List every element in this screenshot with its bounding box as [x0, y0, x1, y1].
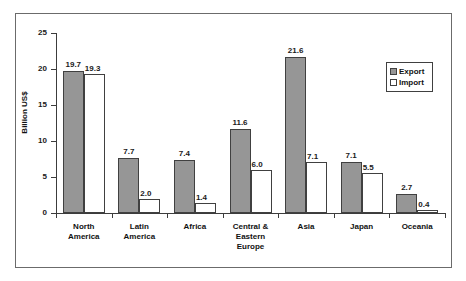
bar-label-import: 5.5	[363, 163, 374, 172]
legend-label-import: Import	[399, 78, 424, 87]
x-category-label: Oceania	[389, 222, 445, 232]
x-category-label-line: Eastern	[223, 232, 279, 242]
bar-label-export: 7.1	[339, 151, 364, 160]
bar-import	[84, 74, 105, 213]
legend-item-import: Import	[390, 77, 429, 88]
x-category-label-line: Japan	[334, 222, 390, 232]
x-category-label: NorthAmerica	[56, 222, 112, 242]
x-tick-mark	[334, 213, 335, 218]
x-tick-mark	[223, 213, 224, 218]
bar-import	[362, 173, 383, 213]
legend-swatch-export-icon	[390, 68, 397, 75]
x-category-label: Central &EasternEurope	[223, 222, 279, 252]
x-category-label-line: Africa	[167, 222, 223, 232]
x-axis-line	[56, 213, 445, 214]
bar-label-import: 0.4	[418, 200, 429, 209]
legend-swatch-import-icon	[390, 79, 397, 86]
y-tick-label: 25	[17, 29, 47, 37]
x-category-label: Japan	[334, 222, 390, 232]
bar-import	[306, 162, 327, 213]
x-tick-mark	[445, 213, 446, 218]
x-tick-mark	[112, 213, 113, 218]
y-tick-label: 20	[17, 65, 47, 73]
bar-label-export: 11.6	[228, 118, 253, 127]
bar-export	[174, 160, 195, 213]
bar-label-import: 1.4	[196, 193, 207, 202]
bar-label-import: 6.0	[252, 160, 263, 169]
x-category-label-line: Europe	[223, 242, 279, 252]
x-category-label-line: Oceania	[389, 222, 445, 232]
bar-label-import: 7.1	[307, 152, 318, 161]
legend-item-export: Export	[390, 66, 429, 77]
x-category-label: Asia	[278, 222, 334, 232]
bar-label-export: 2.7	[394, 183, 419, 192]
x-category-label-line: America	[112, 232, 168, 242]
x-tick-mark	[167, 213, 168, 218]
x-category-label-line: North	[56, 222, 112, 232]
bar-label-export: 21.6	[283, 46, 308, 55]
bar-import	[417, 210, 438, 213]
bar-label-export: 7.4	[172, 149, 197, 158]
bar-import	[251, 170, 272, 213]
y-tick-label: 5	[17, 173, 47, 181]
x-category-label-line: America	[56, 232, 112, 242]
bar-export	[63, 71, 84, 213]
x-tick-mark	[278, 213, 279, 218]
bar-export	[230, 129, 251, 213]
x-category-label: LatinAmerica	[112, 222, 168, 242]
legend-label-export: Export	[399, 67, 424, 76]
bar-export	[341, 162, 362, 213]
bar-label-import: 2.0	[140, 189, 151, 198]
y-tick-label: 0	[17, 209, 47, 217]
x-tick-mark	[56, 213, 57, 218]
bar-import	[195, 203, 216, 213]
bar-import	[139, 199, 160, 213]
bar-export	[118, 158, 139, 213]
x-category-label-line: Asia	[278, 222, 334, 232]
bar-label-import: 19.3	[85, 64, 101, 73]
chart-legend: Export Import	[386, 62, 433, 92]
bar-export	[285, 57, 306, 213]
y-tick-label: 15	[17, 101, 47, 109]
bar-label-export: 7.7	[116, 147, 141, 156]
x-category-label: Africa	[167, 222, 223, 232]
y-tick-label: 10	[17, 137, 47, 145]
x-category-label-line: Central &	[223, 222, 279, 232]
bar-export	[396, 194, 417, 213]
x-category-label-line: Latin	[112, 222, 168, 232]
bar-label-export: 19.7	[61, 60, 86, 69]
x-tick-mark	[389, 213, 390, 218]
chart-figure: Billion US$ 0510152025 19.719.37.72.07.4…	[0, 0, 466, 281]
